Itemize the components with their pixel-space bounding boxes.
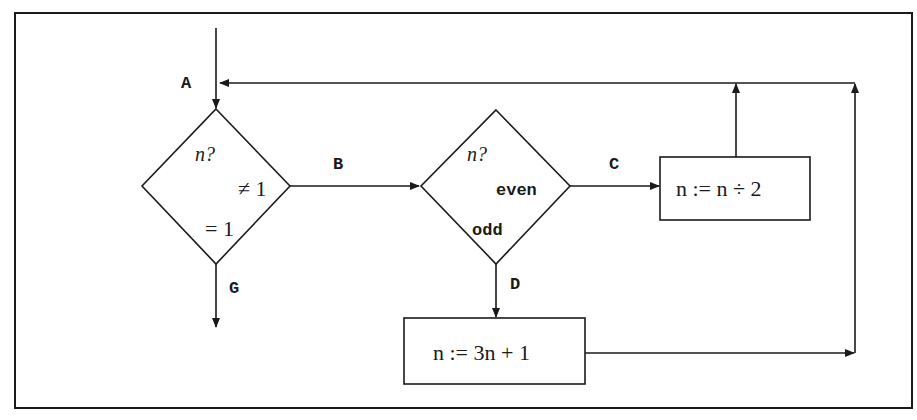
edge-label-d: D [510, 276, 520, 293]
flowchart-canvas: A B C D G n? ≠ 1 = 1 n? even odd n := n … [0, 0, 917, 420]
edge-label-a: A [181, 75, 191, 92]
decision-1-branch-not-one: ≠ 1 [238, 178, 267, 200]
process-halve-text: n := n ÷ 2 [676, 178, 762, 200]
edge-label-g: G [229, 280, 239, 297]
process-triple-text: n := 3n + 1 [433, 342, 530, 364]
decision-2-branch-even: even [496, 182, 537, 199]
decision-1-question: n? [195, 144, 215, 164]
decision-2-branch-odd: odd [472, 222, 503, 239]
decision-2-question: n? [467, 144, 487, 164]
edge-label-b: B [333, 156, 343, 173]
decision-1-branch-one: = 1 [205, 218, 234, 240]
edge-label-c: C [609, 156, 619, 173]
